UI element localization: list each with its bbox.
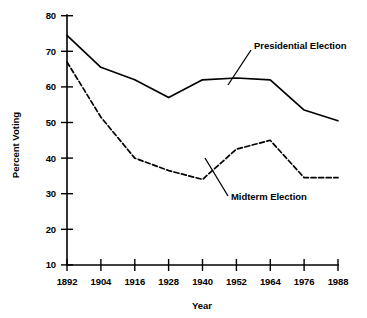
x-axis-title: Year [192, 300, 212, 311]
line-chart: 80 70 60 50 40 30 20 10 1892 1904 1916 [0, 0, 367, 318]
y-tick-labels: 80 70 60 50 40 30 20 10 [46, 10, 56, 270]
y-tick-label: 10 [46, 259, 56, 270]
annotation-midterm-election: Midterm Election [231, 191, 307, 202]
presidential-leader-line [228, 50, 251, 85]
x-tick-label: 1916 [124, 276, 145, 287]
x-tick-label: 1988 [328, 276, 349, 287]
chart-canvas: 80 70 60 50 40 30 20 10 1892 1904 1916 [0, 0, 367, 318]
y-axis-title: Percent Voting [10, 112, 21, 179]
x-tick-label: 1964 [260, 276, 282, 287]
x-tick-label: 1952 [226, 276, 247, 287]
midterm-leader-line [205, 158, 228, 196]
y-tick-label: 30 [46, 188, 56, 199]
y-tick-label: 60 [46, 81, 56, 92]
y-tick-label: 50 [46, 117, 56, 128]
x-tick-label: 1904 [91, 276, 113, 287]
annotation-presidential-election: Presidential Election [254, 40, 347, 51]
y-tick-label: 20 [46, 224, 56, 235]
x-tick-labels: 1892 1904 1916 1928 1940 1952 1964 1976 … [57, 276, 349, 287]
y-tick-label: 40 [46, 153, 56, 164]
x-tick-label: 1976 [294, 276, 315, 287]
x-tick-label: 1892 [57, 276, 78, 287]
y-tick-label: 70 [46, 46, 56, 57]
y-tick-label: 80 [46, 10, 56, 21]
x-tick-label: 1940 [192, 276, 213, 287]
x-tick-label: 1928 [158, 276, 179, 287]
